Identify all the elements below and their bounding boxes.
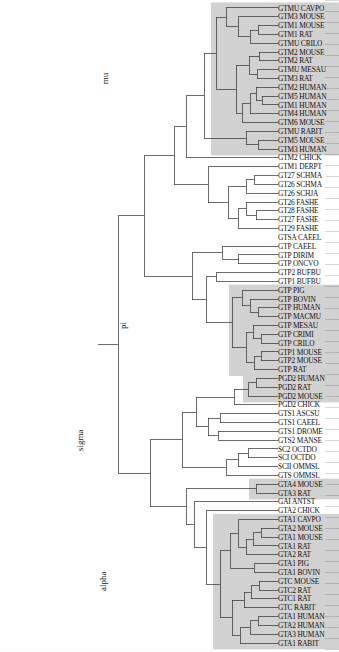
tip-label: GTA3 HUMAN — [278, 630, 325, 639]
tip-label: GTS2 MANSE — [278, 436, 323, 445]
tip-label: GTC2 RAT — [278, 586, 312, 595]
tip-label: GTP HUMAN — [278, 303, 321, 312]
tip-label: GTMU CAVPO — [278, 4, 325, 13]
tip-label: GTP CRIMI — [278, 330, 314, 339]
tip-label: GTP CRILO — [278, 339, 315, 348]
clade-label-sigma: sigma — [75, 429, 85, 451]
tip-label: GTM6 MOUSE — [278, 118, 325, 127]
tip-label: GTA2 MOUSE — [278, 524, 323, 533]
tip-label: GT27 FASHE — [278, 215, 319, 224]
tip-label: GTA2 RAT — [278, 550, 312, 559]
tip-label: GT28 FASHE — [278, 206, 319, 215]
tip-label: GTM2 HUMAN — [278, 83, 327, 92]
tip-label: GTP1 MOUSE — [278, 348, 323, 357]
tip-label: GTP1 BUFBU — [278, 277, 321, 286]
tip-label: GAI ANTST — [278, 497, 316, 506]
tip-label: GTM5 MOUSE — [278, 136, 325, 145]
rotated-figure-container: GTA1 RABITGTA3 HUMANGTA2 HUMANGTA1 HUMAN… — [0, 0, 339, 652]
tip-label: GTC RABIT — [278, 603, 316, 612]
tip-label: GTA1 RABIT — [278, 639, 319, 648]
tip-label: GTM1 MOUSE — [278, 21, 325, 30]
tip-label: GTP BOVIN — [278, 295, 316, 304]
tip-label: GTP CAEEL — [278, 242, 317, 251]
tip-label: GTP2 MOUSE — [278, 356, 323, 365]
tip-label: GTM2 RAT — [278, 56, 313, 65]
clade-label-pi: pi — [118, 321, 128, 329]
tip-label: GTA4 MOUSE — [278, 480, 323, 489]
tip-label: GTS1 CAEEL — [278, 418, 320, 427]
tip-label: GTS1 ASCSU — [278, 409, 320, 418]
tip-label: GTA3 RAT — [278, 489, 312, 498]
tip-label: GTM5 HUMAN — [278, 92, 327, 101]
tip-label: GTMU CRILO — [278, 39, 323, 48]
tip-label: PGD2 RAT — [278, 383, 312, 392]
tip-label: GTS1 DROME — [278, 427, 323, 436]
tip-label: GTA1 HUMAN — [278, 612, 325, 621]
tip-label: GTP ONCVO — [278, 259, 319, 268]
tip-label: SCI OCTDO — [278, 453, 316, 462]
tip-label: GT26 SCHJA — [278, 189, 319, 198]
tip-label: GTM4 HUMAN — [278, 109, 327, 118]
tip-label: GTA1 BOVIN — [278, 568, 321, 577]
tip-label: GTMU MESAU — [278, 65, 327, 74]
tip-label: GTA2 CHICK — [278, 506, 320, 515]
tip-label: GTS OMMSL — [278, 471, 320, 480]
tip-label: GTP MESAU — [278, 321, 319, 330]
tip-label: GT29 FASHE — [278, 224, 319, 233]
tip-label: PGD2 HUMAN — [278, 374, 326, 383]
tip-label: PGD2 MOUSE — [278, 392, 323, 401]
tip-label: GT26 FASHE — [278, 198, 319, 207]
tip-label: GTM2 MOUSE — [278, 48, 325, 57]
tip-label: GTM1 RAT — [278, 30, 313, 39]
tip-label: GTC1 RAT — [278, 595, 312, 604]
tip-label: SCII OMMSL — [278, 462, 320, 471]
tip-label: GTM2 CHICK — [278, 154, 322, 163]
tip-label: GTP PIG — [278, 286, 305, 295]
figure-page: GTA1 RABITGTA3 HUMANGTA2 HUMANGTA1 HUMAN… — [0, 0, 339, 652]
clade-label-alpha: alpha — [98, 572, 108, 592]
tip-label: GTM1 DERPT — [278, 162, 323, 171]
tip-label: PGD2 CHICK — [278, 400, 321, 409]
tip-label: GTC MOUSE — [278, 577, 320, 586]
tip-label: GTSA CAEEL — [278, 233, 322, 242]
tip-label: GTM3 HUMAN — [278, 145, 327, 154]
clade-labels-group: alphasigmapimu — [75, 72, 128, 591]
tip-label: GT26 SCHMA — [278, 180, 323, 189]
tip-label: GTA1 PIG — [278, 559, 310, 568]
tip-label: GTM3 RAT — [278, 74, 313, 83]
tip-label: GTP2 BUFBU — [278, 268, 321, 277]
tip-label: SC2 OCTDO — [278, 445, 318, 454]
tip-label: GTP RAT — [278, 365, 307, 374]
tip-label: GTA1 CAVPO — [278, 515, 322, 524]
tip-label: GT27 SCHMA — [278, 171, 323, 180]
tip-label: GTA1 MOUSE — [278, 533, 323, 542]
clade-label-mu: mu — [100, 72, 110, 84]
phylogenetic-tree: GTA1 RABITGTA3 HUMANGTA2 HUMANGTA1 HUMAN… — [0, 0, 339, 652]
tip-label: GTMU RABIT — [278, 127, 323, 136]
tip-label: GTM3 MOUSE — [278, 12, 325, 21]
tip-label: GTM1 HUMAN — [278, 101, 327, 110]
tip-label: GTA2 HUMAN — [278, 621, 325, 630]
tip-label: GTP DIRIM — [278, 251, 315, 260]
tip-label: GTP MACMU — [278, 312, 322, 321]
tip-label: GTA1 RAT — [278, 542, 312, 551]
